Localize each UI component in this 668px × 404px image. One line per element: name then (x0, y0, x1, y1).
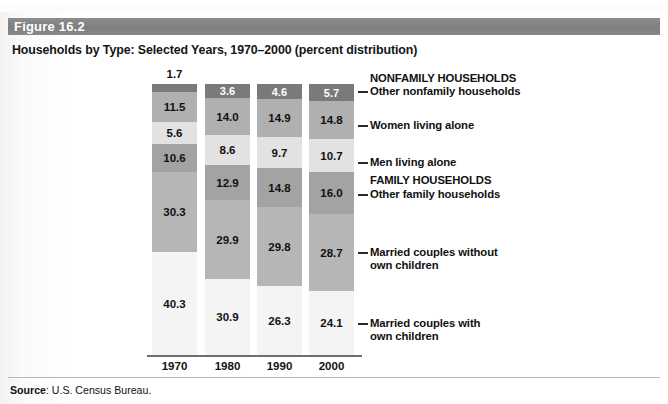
legend-heading-nonfamily: NONFAMILY HOUSEHOLDS (370, 72, 516, 84)
segment-married-without-2000: 28.7 (309, 214, 354, 291)
figure-page: Figure 16.2 Households by Type: Selected… (0, 0, 668, 404)
legend-label-other-nonfamily[interactable]: Other nonfamily households (370, 85, 521, 98)
x-axis-tick-1980: 1980 (205, 360, 250, 372)
segment-married-without-1980: 29.9 (205, 200, 250, 279)
source-label: Source (10, 384, 46, 396)
x-axis-tick-1970: 1970 (152, 360, 197, 372)
x-axis-tick-1990: 1990 (257, 360, 302, 372)
legend-label-married-without[interactable]: Married couples without own children (370, 246, 498, 271)
leader-line-other-nonfamily (358, 91, 368, 93)
segment-men-alone-2000: 10.7 (309, 139, 354, 172)
segment-women-alone-2000: 14.8 (309, 101, 354, 139)
segment-other-nonfamily-1990: 4.6 (257, 84, 302, 99)
source-note: Source: U.S. Census Bureau. (10, 384, 151, 396)
segment-women-alone-1990: 14.9 (257, 99, 302, 137)
leader-line-married-with (358, 323, 368, 325)
leader-line-married-without (358, 252, 368, 254)
legend-heading-family: FAMILY HOUSEHOLDS (370, 174, 491, 186)
segment-married-with-1970: 40.3 (152, 252, 197, 355)
legend-label-other-family[interactable]: Other family households (370, 188, 500, 201)
legend-panel: NONFAMILY HOUSEHOLDS Other nonfamily hou… (358, 70, 658, 360)
segment-other-nonfamily-2000: 5.7 (309, 84, 354, 101)
x-axis-tick-2000: 2000 (309, 360, 354, 372)
segment-other-family-1980: 12.9 (205, 165, 250, 200)
bar-column-1980[interactable]: 3.6 14.0 8.6 12.9 29.9 30.9 (205, 84, 250, 352)
figure-number-label: Figure 16.2 (14, 19, 85, 34)
segment-other-nonfamily-1980: 3.6 (205, 84, 250, 98)
bar-1970-top-value: 1.7 (152, 68, 197, 80)
segment-married-without-1970: 30.3 (152, 172, 197, 252)
footer-divider (8, 377, 660, 378)
figure-title: Households by Type: Selected Years, 1970… (12, 43, 417, 57)
legend-label-men-alone[interactable]: Men living alone (370, 156, 456, 169)
segment-men-alone-1970: 5.6 (152, 122, 197, 144)
x-axis-line (147, 355, 362, 357)
segment-other-family-1990: 14.8 (257, 168, 302, 207)
segment-married-with-1990: 26.3 (257, 286, 302, 355)
segment-men-alone-1990: 9.7 (257, 137, 302, 168)
segment-other-family-2000: 16.0 (309, 172, 354, 214)
figure-header-band (8, 18, 660, 35)
bar-column-1970[interactable]: 11.5 5.6 10.6 30.3 40.3 (152, 84, 197, 352)
segment-married-with-1980: 30.9 (205, 279, 250, 355)
segment-other-family-1970: 10.6 (152, 144, 197, 172)
segment-men-alone-1980: 8.6 (205, 135, 250, 165)
leader-line-men-alone (358, 162, 368, 164)
leader-line-other-family (358, 194, 368, 196)
bar-column-2000[interactable]: 5.7 14.8 10.7 16.0 28.7 24.1 (309, 84, 354, 352)
segment-women-alone-1970: 11.5 (152, 92, 197, 122)
segment-married-with-2000: 24.1 (309, 291, 354, 355)
segment-women-alone-1980: 14.0 (205, 98, 250, 135)
source-value: : U.S. Census Bureau. (46, 384, 151, 396)
bar-column-1990[interactable]: 4.6 14.9 9.7 14.8 29.8 26.3 (257, 84, 302, 352)
legend-label-women-alone[interactable]: Women living alone (370, 119, 474, 132)
segment-other-nonfamily-1970 (152, 84, 197, 92)
leader-line-women-alone (358, 125, 368, 127)
segment-married-without-1990: 29.8 (257, 207, 302, 286)
legend-label-married-with[interactable]: Married couples with own children (370, 317, 480, 342)
stacked-bar-plot: 11.5 5.6 10.6 30.3 40.3 3.6 14.0 8.6 12.… (152, 84, 356, 352)
scan-top-margin (0, 0, 668, 12)
